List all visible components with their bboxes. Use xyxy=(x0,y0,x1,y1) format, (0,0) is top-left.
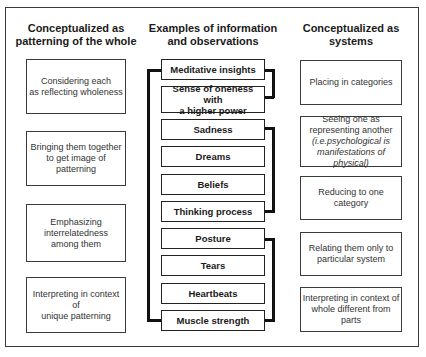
left-bracket-top-arm xyxy=(147,69,162,72)
right-box-3-text: Reducing to one category xyxy=(302,187,400,209)
right-box-1-text: Placing in categories xyxy=(309,77,392,88)
right-column-title: Conceptualized as systems xyxy=(290,22,412,48)
left-bracket-bottom-arm xyxy=(147,319,162,322)
right-box-4: Relating them only to particular system xyxy=(300,232,402,276)
middle-column-title: Examples of information and observations xyxy=(146,22,280,48)
right-bracket-3-top-arm xyxy=(264,238,274,241)
right-bracket-2-vertical xyxy=(272,127,275,213)
right-bracket-2-bottom-arm xyxy=(264,210,274,213)
right-box-2: Seeing one as representing another (i.e.… xyxy=(300,116,402,167)
example-muscle-strength: Muscle strength xyxy=(161,310,265,331)
example-beliefs: Beliefs xyxy=(161,174,265,195)
example-thinking-process: Thinking process xyxy=(161,201,265,222)
right-box-5-text: Interpreting in context of whole differe… xyxy=(302,293,400,326)
example-meditative-insights: Meditative insights xyxy=(161,59,265,80)
left-column-title: Conceptualized as patterning of the whol… xyxy=(14,22,138,48)
right-bracket-3-vertical xyxy=(272,238,275,322)
right-bracket-1-top-arm xyxy=(264,69,274,72)
example-dreams: Dreams xyxy=(161,146,265,167)
right-bracket-1-bottom-arm xyxy=(264,96,274,99)
right-box-5: Interpreting in context of whole differe… xyxy=(300,287,402,332)
example-sense-of-oneness: Sense of oneness with a higher power xyxy=(161,86,265,113)
example-tears: Tears xyxy=(161,255,265,276)
left-box-2: Bringing them together to get image of p… xyxy=(26,131,126,186)
left-box-1: Considering each as reflecting wholeness xyxy=(26,59,126,114)
example-sadness: Sadness xyxy=(161,119,265,140)
example-posture: Posture xyxy=(161,228,265,249)
right-box-3: Reducing to one category xyxy=(300,176,402,220)
left-bracket-vertical xyxy=(147,69,150,321)
right-box-1: Placing in categories xyxy=(300,60,402,105)
left-box-4: Interpreting in context of unique patter… xyxy=(26,277,126,333)
right-box-4-text: Relating them only to particular system xyxy=(309,243,394,265)
example-heartbeats: Heartbeats xyxy=(161,283,265,304)
left-box-3: Emphasizing interrelatedness among them xyxy=(26,204,126,262)
right-bracket-3-bottom-arm xyxy=(264,319,274,322)
right-box-2-text: Seeing one as representing another xyxy=(309,114,392,136)
right-bracket-1-vertical xyxy=(272,69,275,98)
right-bracket-2-top-arm xyxy=(264,127,274,130)
right-box-2-note: (i.e.psychological is manifestations of … xyxy=(302,136,400,169)
